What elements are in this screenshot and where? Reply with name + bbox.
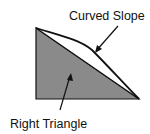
slope-diagram: Curved Slope Right Triangle xyxy=(0,0,150,134)
right-triangle-label: Right Triangle xyxy=(10,117,87,131)
curved-slope-arrow-icon xyxy=(95,26,118,53)
curved-slope-label: Curved Slope xyxy=(69,9,145,23)
